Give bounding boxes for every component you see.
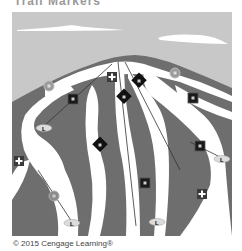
svg-text:L: L xyxy=(42,126,46,132)
intermediate-square-icon xyxy=(68,94,78,104)
copyright-credit: © 2015 Cengage Learning® xyxy=(13,239,113,248)
easy-circle-icon xyxy=(49,191,59,201)
svg-text:L: L xyxy=(155,220,159,226)
first-aid-cross-icon xyxy=(14,156,24,166)
svg-text:L: L xyxy=(70,221,74,227)
first-aid-cross-icon xyxy=(197,189,207,199)
figure-title-partial: Trail Markers xyxy=(14,0,101,8)
intermediate-square-icon xyxy=(188,93,198,103)
first-aid-cross-icon xyxy=(107,72,117,82)
ski-trail-map: L L L L xyxy=(12,12,232,236)
svg-text:L: L xyxy=(220,157,224,163)
easy-circle-icon xyxy=(170,68,180,78)
intermediate-square-icon xyxy=(140,178,150,188)
intermediate-square-icon xyxy=(195,141,205,151)
easy-circle-icon xyxy=(44,81,54,91)
